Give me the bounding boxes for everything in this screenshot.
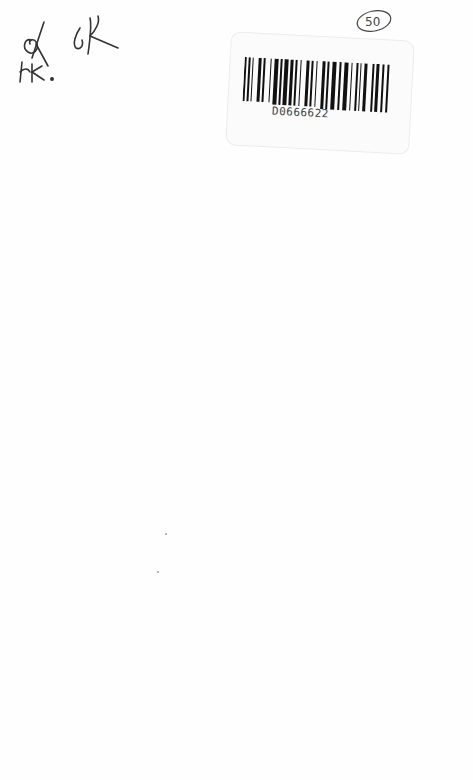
scan-speck bbox=[165, 533, 167, 535]
scanned-page: 50 bbox=[0, 0, 473, 780]
handwritten-initials bbox=[10, 8, 130, 83]
circled-number: 50 bbox=[355, 6, 395, 36]
scan-speck bbox=[157, 571, 159, 573]
barcode-number: D0666622 bbox=[272, 105, 330, 121]
svg-text:50: 50 bbox=[365, 15, 380, 29]
barcode-label: D0666622 bbox=[225, 31, 415, 154]
